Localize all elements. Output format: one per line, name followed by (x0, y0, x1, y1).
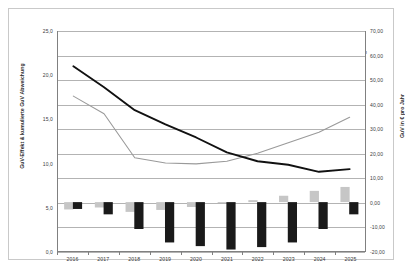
chart-series-layer (58, 31, 365, 251)
bar-annual (187, 202, 196, 207)
bar-cumulative (104, 202, 113, 214)
x-axis-tick-mark (212, 252, 213, 255)
bar-annual (248, 200, 257, 202)
y-axis-right-tick-label: 40,00 (370, 102, 404, 108)
y-axis-title-right: GuV in € pro Jahr (399, 41, 405, 191)
bar-annual (126, 202, 135, 212)
bar-cumulative (165, 202, 174, 242)
x-axis-tick-mark (57, 252, 58, 255)
y-axis-left-tick-label: 25,0 (19, 28, 53, 34)
line-zinsszenario (73, 96, 349, 164)
y-axis-right-tick-label: -20,00 (370, 249, 404, 255)
bar-annual (218, 202, 227, 203)
x-axis-tick-mark (181, 252, 182, 255)
y-axis-right-tick-label: 50,00 (370, 77, 404, 83)
y-axis-left-tick-label: 20,0 (19, 72, 53, 78)
bar-cumulative (196, 202, 205, 246)
x-axis-tick-mark (119, 252, 120, 255)
chart-frame: GuV Abweichung bei Zinsszenario Kumulier… (8, 8, 394, 260)
y-axis-right-tick-label: 0,00 (370, 200, 404, 206)
line-nullszenario (73, 66, 349, 172)
bar-cumulative (288, 202, 297, 242)
bar-cumulative (318, 202, 327, 229)
x-axis-tick-mark (273, 252, 274, 255)
x-axis-tick-mark (88, 252, 89, 255)
bar-annual (64, 202, 73, 209)
y-axis-right-tick-label: 60,00 (370, 53, 404, 59)
bar-cumulative (73, 202, 82, 209)
x-axis-tick-mark (335, 252, 336, 255)
x-axis-tick-mark (304, 252, 305, 255)
y-axis-right-tick-label: 10,00 (370, 175, 404, 181)
y-axis-right-tick-label: 30,00 (370, 126, 404, 132)
bar-cumulative (226, 202, 235, 249)
bar-annual (340, 187, 349, 202)
bar-annual (279, 196, 288, 202)
y-axis-right-tick-label: 70,00 (370, 28, 404, 34)
x-axis-tick-mark (150, 252, 151, 255)
bar-cumulative (134, 202, 143, 229)
x-axis-tick-mark (242, 252, 243, 255)
y-axis-left-tick-label: 0,0 (19, 249, 53, 255)
plot-area (57, 31, 366, 252)
y-axis-left-tick-label: 10,0 (19, 161, 53, 167)
y-axis-right-tick-label: -10,00 (370, 224, 404, 230)
x-axis-tick-label: 2025 (331, 256, 371, 262)
bar-cumulative (349, 202, 358, 214)
bar-cumulative (257, 202, 266, 247)
bar-annual (156, 202, 165, 210)
y-axis-left-tick-label: 15,0 (19, 116, 53, 122)
y-axis-right-tick-label: 20,00 (370, 151, 404, 157)
bar-annual (95, 202, 104, 207)
bar-annual (310, 191, 319, 202)
y-axis-left-tick-label: 5,0 (19, 205, 53, 211)
